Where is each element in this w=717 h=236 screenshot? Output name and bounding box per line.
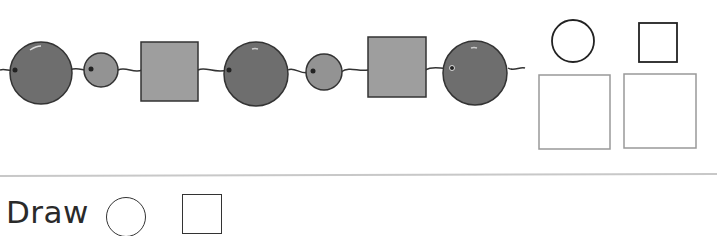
square-bead: [368, 37, 426, 97]
bead-pattern: [0, 0, 717, 160]
draw-label: Draw: [6, 194, 89, 230]
section-divider: [0, 173, 717, 177]
large-circle-bead: [443, 41, 507, 105]
square-icon: [182, 194, 222, 234]
circle-icon: [106, 197, 146, 236]
square-bead: [141, 42, 198, 101]
large-circle-bead: [10, 42, 72, 104]
large-circle-bead: [224, 42, 288, 106]
answer-box[interactable]: [624, 74, 696, 148]
answer-box[interactable]: [539, 75, 610, 149]
legend-circle: [552, 20, 594, 62]
small-circle-bead: [306, 54, 342, 90]
legend-square: [639, 23, 677, 62]
small-circle-bead: [84, 53, 118, 87]
